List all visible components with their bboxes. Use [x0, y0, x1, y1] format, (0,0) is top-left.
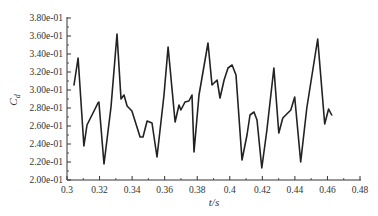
x-tick-label: 0.46: [319, 185, 336, 195]
y-tick-label: 3.80e-01: [29, 13, 63, 23]
x-tick-label: 0.3: [61, 185, 73, 195]
x-tick-label: 0.48: [352, 185, 369, 195]
y-tick-label: 2.20e-01: [29, 157, 63, 167]
x-tick-label: 0.4: [224, 185, 236, 195]
x-tick-label: 0.38: [189, 185, 206, 195]
y-axis-title: Cd: [7, 93, 22, 105]
line-chart: 2.00e-012.20e-012.40e-012.60e-012.80e-01…: [0, 0, 378, 216]
y-axis-title-sub: d: [13, 93, 22, 98]
x-tick-label: 0.36: [156, 185, 173, 195]
y-tick-label: 3.60e-01: [29, 31, 63, 41]
svg-text:Cd: Cd: [7, 93, 22, 105]
x-axis-title: t/s: [209, 196, 219, 208]
y-tick-label: 2.00e-01: [29, 175, 63, 185]
y-tick-label: 3.00e-01: [29, 85, 63, 95]
x-axis-ticks: 0.30.320.340.360.380.40.420.440.460.48: [61, 176, 369, 195]
x-tick-label: 0.42: [254, 185, 271, 195]
y-tick-label: 2.80e-01: [29, 103, 63, 113]
cd-series-line: [74, 34, 332, 168]
y-axis-ticks: 2.00e-012.20e-012.40e-012.60e-012.80e-01…: [29, 13, 71, 185]
y-tick-label: 3.40e-01: [29, 49, 63, 59]
y-tick-label: 2.60e-01: [29, 121, 63, 131]
x-tick-label: 0.32: [91, 185, 108, 195]
x-tick-label: 0.44: [287, 185, 304, 195]
y-tick-label: 3.20e-01: [29, 67, 63, 77]
x-tick-label: 0.34: [124, 185, 141, 195]
y-tick-label: 2.40e-01: [29, 139, 63, 149]
